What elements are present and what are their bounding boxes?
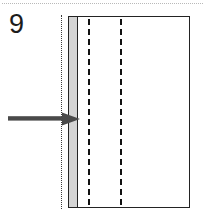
body-rectangle [68,16,190,208]
dashed-line-2 [120,19,122,205]
dashed-line-1 [88,19,90,205]
pointer-arrow-glyph [8,108,80,130]
horizontal-separator-rule [2,3,203,4]
figure-number-label: 9 [9,8,24,40]
pointer-arrow [8,108,80,130]
figure-container: 9 [0,0,205,222]
